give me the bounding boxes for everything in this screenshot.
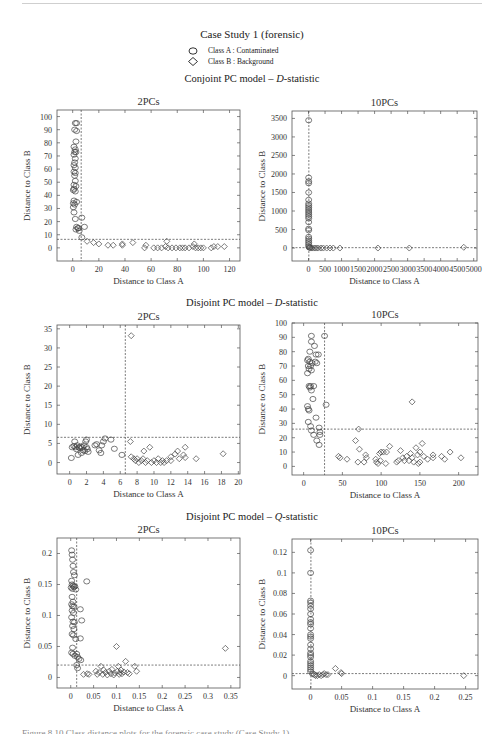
figure-caption: Figure 8.10 Class distance plots for the… bbox=[22, 726, 492, 734]
x-tick-label: 60 bbox=[147, 265, 155, 274]
x-tick-label: 2000 bbox=[367, 265, 383, 274]
class-b-point bbox=[442, 456, 448, 462]
y-tick-label: 0.06 bbox=[273, 610, 287, 619]
class-a-point bbox=[72, 127, 78, 132]
plot-title: 2PCs bbox=[137, 524, 159, 535]
y-tick-label: 70 bbox=[44, 152, 52, 161]
y-tick-label: 80 bbox=[279, 348, 287, 357]
class-b-point bbox=[337, 245, 343, 251]
y-tick-label: 50 bbox=[44, 178, 52, 187]
y-tick-label: 20 bbox=[279, 434, 287, 443]
x-tick-label: 0 bbox=[302, 479, 306, 488]
y-tick-label: 60 bbox=[279, 376, 287, 385]
plot-title: 10PCs bbox=[371, 97, 398, 108]
x-tick-label: 0.25 bbox=[459, 693, 473, 702]
y-tick-label: 0 bbox=[48, 673, 52, 682]
y-tick-label: 20 bbox=[44, 382, 52, 391]
class-b-point bbox=[182, 444, 188, 450]
y-tick-label: 0.05 bbox=[38, 642, 52, 651]
y-tick-label: 10 bbox=[44, 420, 52, 429]
class-b-point bbox=[98, 663, 104, 669]
x-tick-label: 14 bbox=[184, 478, 192, 487]
plot-disjoint-q-10pcs: 10PCs00.050.10.150.20.2500.020.040.060.0… bbox=[257, 525, 478, 714]
class-a-point bbox=[323, 402, 329, 407]
class-a-point bbox=[73, 139, 79, 144]
y-tick-label: 3000 bbox=[271, 133, 287, 142]
x-tick-label: 0.05 bbox=[335, 693, 349, 702]
class-b-point bbox=[168, 458, 174, 464]
class-a-point bbox=[72, 216, 78, 221]
x-tick-label: 12 bbox=[167, 478, 175, 487]
plot-conjoint-d-10pcs: 10PCs05001000150020002500300035004000450… bbox=[257, 97, 482, 286]
class-a-point bbox=[75, 452, 81, 457]
class-b-point bbox=[176, 456, 182, 462]
y-tick-label: 30 bbox=[44, 344, 52, 353]
x-tick-label: 100 bbox=[197, 265, 209, 274]
x-tick-label: 0 bbox=[69, 692, 73, 701]
y-tick-label: 0.1 bbox=[277, 569, 287, 578]
x-tick-label: 2500 bbox=[383, 265, 399, 274]
plot-disjoint-d-2pcs: 2PCs0246810121416182005101520253035Dista… bbox=[22, 311, 242, 499]
x-tick-label: 0.2 bbox=[430, 693, 440, 702]
x-tick-label: 20 bbox=[95, 265, 103, 274]
class-b-point bbox=[193, 456, 199, 462]
class-a-point bbox=[111, 446, 117, 451]
class-a-point bbox=[102, 436, 108, 441]
class-b-point bbox=[222, 645, 228, 651]
class-b-point bbox=[115, 663, 121, 669]
y-tick-label: 0.12 bbox=[273, 548, 287, 557]
y-tick-label: 10 bbox=[279, 448, 287, 457]
class-b-point bbox=[375, 245, 381, 251]
class-b-point bbox=[151, 245, 157, 251]
y-tick-label: 0.1 bbox=[42, 611, 52, 620]
plot-frame bbox=[292, 539, 478, 689]
class-a-point bbox=[311, 343, 317, 348]
class-b-point bbox=[144, 458, 150, 464]
x-tick-label: 150 bbox=[414, 479, 426, 488]
x-tick-label: 120 bbox=[224, 265, 236, 274]
class-a-point bbox=[316, 442, 322, 447]
class-a-point bbox=[70, 563, 76, 568]
y-tick-label: 5 bbox=[48, 439, 52, 448]
class-b-point bbox=[141, 448, 147, 454]
y-tick-label: 60 bbox=[44, 165, 52, 174]
class-b-point bbox=[363, 455, 369, 461]
y-tick-label: 0.02 bbox=[273, 651, 287, 660]
class-b-point bbox=[353, 438, 359, 444]
x-tick-label: 0 bbox=[68, 478, 72, 487]
class-a-point bbox=[313, 415, 319, 420]
y-axis-label: Distance to Class B bbox=[257, 364, 267, 435]
y-tick-label: 500 bbox=[275, 226, 287, 235]
class-b-point bbox=[113, 643, 119, 649]
class-a-point bbox=[71, 627, 77, 632]
plot-disjoint-d-10pcs: 10PCs0501001502000102030405060708090100D… bbox=[257, 309, 478, 500]
class-a-point bbox=[310, 396, 316, 401]
y-tick-label: 2500 bbox=[271, 151, 287, 160]
y-tick-label: 0.15 bbox=[38, 580, 52, 589]
class-a-point bbox=[92, 443, 98, 448]
y-tick-label: 30 bbox=[279, 419, 287, 428]
class-a-point bbox=[77, 636, 83, 641]
y-tick-label: 1500 bbox=[271, 188, 287, 197]
y-tick-label: 2000 bbox=[271, 170, 287, 179]
y-tick-label: 0.04 bbox=[273, 631, 287, 640]
x-tick-label: 3500 bbox=[416, 265, 432, 274]
class-a-point bbox=[68, 455, 74, 460]
y-tick-label: 80 bbox=[44, 139, 52, 148]
class-b-point bbox=[155, 245, 161, 251]
plot-title: 10PCs bbox=[371, 309, 398, 320]
y-tick-label: 3500 bbox=[271, 114, 287, 123]
x-tick-label: 40 bbox=[121, 265, 129, 274]
x-axis-label: Distance to Class A bbox=[113, 489, 184, 499]
x-tick-label: 20 bbox=[234, 478, 242, 487]
x-tick-label: 2 bbox=[85, 478, 89, 487]
y-tick-label: 100 bbox=[40, 113, 52, 122]
y-tick-label: 20 bbox=[44, 218, 52, 227]
class-b-point bbox=[127, 439, 133, 445]
y-axis-label: Distance to Class B bbox=[257, 151, 267, 222]
x-tick-label: 0.1 bbox=[111, 692, 121, 701]
class-a-point bbox=[71, 210, 77, 215]
y-tick-label: 70 bbox=[279, 362, 287, 371]
plot-frame bbox=[57, 538, 240, 688]
x-tick-label: 5000 bbox=[466, 265, 482, 274]
